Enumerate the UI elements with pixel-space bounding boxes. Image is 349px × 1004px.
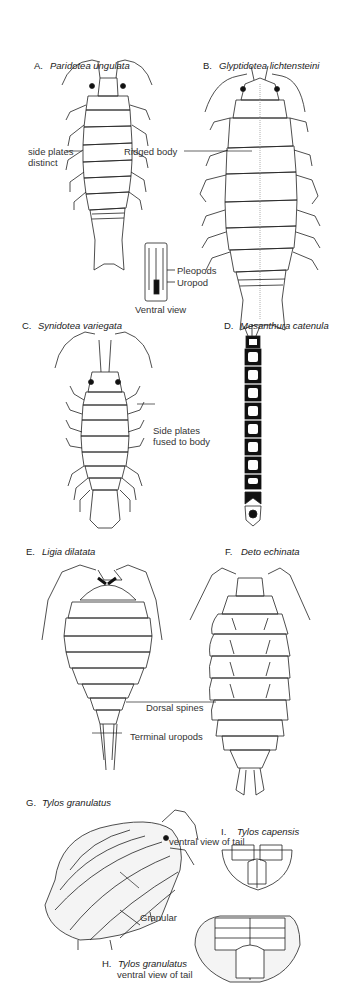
ventral-view-caption: Ventral view (135, 304, 186, 315)
figure-e-title: E.Ligia dilatata (26, 546, 95, 557)
figure-h-subtitle: ventral view of tail (117, 969, 193, 980)
dorsal-spines-label: Dorsal spines (146, 702, 204, 713)
figure-g-title: G.Tylos granulatus (26, 797, 111, 808)
figure-h-title: H.Tylos granulatus (102, 958, 187, 969)
granular-label: Granular (140, 912, 177, 923)
uropod-label: Uropod (177, 277, 208, 288)
figure-c-title: C.Synidotea variegata (22, 320, 122, 331)
pleopods-label: Pleopods (177, 265, 217, 276)
figure-i-subtitle: ventral view of tail (169, 836, 245, 847)
figure-f-title: F.Deto echinata (225, 546, 300, 557)
terminal-uropods-label: Terminal uropods (130, 731, 203, 742)
side-plates-fused-label: Side platesfused to body (153, 425, 210, 447)
ridged-body-label: Ridged body (124, 146, 177, 157)
figure-d-title: D.Mesanthura catenula (224, 320, 329, 331)
